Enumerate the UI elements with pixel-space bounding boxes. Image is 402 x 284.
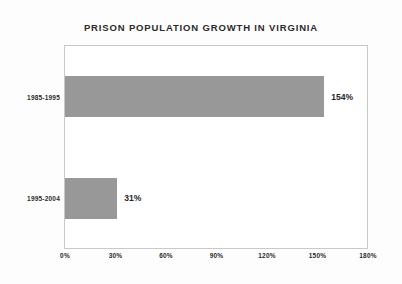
chart-canvas: PRISON POPULATION GROWTH IN VIRGINIA 198… [0,0,402,284]
x-tick-0%: 0% [60,252,70,259]
category-label-1995-2004: 1995-2004 [0,195,60,202]
x-tick-30%: 30% [109,252,123,259]
plot-area: 154%31% [65,46,368,249]
x-tick-120%: 120% [258,252,275,259]
category-axis-labels: 1985-19951995-2004 [0,46,60,249]
x-tick-150%: 150% [309,252,326,259]
x-tick-60%: 60% [159,252,173,259]
bar-value-label: 31% [117,193,141,203]
chart-title: PRISON POPULATION GROWTH IN VIRGINIA [0,22,402,33]
bar-row: 31% [65,178,368,219]
x-tick-90%: 90% [210,252,224,259]
bar-1995-2004[interactable] [65,178,117,219]
bar-value-label: 154% [324,92,353,102]
category-label-1985-1995: 1985-1995 [0,93,60,100]
x-tick-180%: 180% [359,252,376,259]
x-axis-tick-labels: 0%30%60%90%120%150%180% [65,252,368,266]
bar-row: 154% [65,76,368,117]
bar-1985-1995[interactable] [65,76,324,117]
